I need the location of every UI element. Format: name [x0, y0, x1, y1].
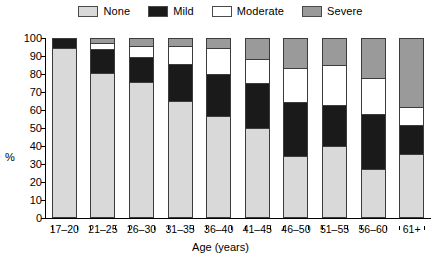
- bar-segment: [284, 39, 307, 68]
- bar-stack: [129, 38, 154, 218]
- y-axis-tick-labels: 0102030405060708090100: [16, 30, 42, 218]
- bar-segment: [207, 74, 230, 116]
- y-tick-label: 100: [24, 33, 42, 44]
- legend-label: Severe: [327, 6, 362, 17]
- bar-segment: [169, 39, 192, 46]
- bar-segment: [169, 46, 192, 64]
- bar-segment: [53, 39, 76, 48]
- y-axis-title: %: [5, 152, 15, 163]
- x-tick-label: 36–40: [204, 223, 233, 235]
- bar-stack: [52, 38, 77, 218]
- bar-segment: [362, 169, 385, 217]
- legend-item: Moderate: [212, 6, 284, 17]
- bar-segment: [362, 39, 385, 78]
- bar-segment: [53, 48, 76, 217]
- bar-segment: [169, 101, 192, 217]
- bar-segment: [323, 39, 346, 65]
- bar-segment: [207, 48, 230, 74]
- x-axis-tick-labels: 17–2021–2526–3031–3536–4041–4546–5051–55…: [45, 223, 431, 237]
- bar-stack: [361, 38, 386, 218]
- x-tick-label: 31–35: [165, 223, 194, 235]
- bar-segment: [246, 39, 269, 59]
- legend-item: Mild: [148, 6, 194, 17]
- bar-segment: [130, 46, 153, 57]
- bar-segment: [91, 73, 114, 217]
- bar-segment: [246, 128, 269, 217]
- bar-segment: [400, 154, 423, 217]
- bar-segment: [400, 125, 423, 153]
- bar-stack: [168, 38, 193, 218]
- bar-segment: [323, 105, 346, 146]
- bar-segment: [246, 59, 269, 83]
- bar-stack: [90, 38, 115, 218]
- bar-segment: [400, 39, 423, 107]
- x-tick-label: 26–30: [127, 223, 156, 235]
- bar-segment: [130, 57, 153, 82]
- x-tick-label: 41–45: [243, 223, 272, 235]
- bar-stack: [283, 38, 308, 218]
- bars-layer: [45, 38, 431, 218]
- legend-label: None: [103, 6, 130, 17]
- chart-legend: NoneMildModerateSevere: [0, 6, 441, 17]
- bar-segment: [362, 114, 385, 169]
- legend-swatch-icon: [302, 6, 322, 17]
- bar-segment: [246, 83, 269, 128]
- legend-label: Mild: [173, 6, 194, 17]
- x-tick-label: 21–25: [88, 223, 117, 235]
- bar-segment: [284, 102, 307, 155]
- x-axis-line: [45, 218, 431, 219]
- bar-segment: [130, 39, 153, 46]
- y-tick-mark: [41, 218, 45, 219]
- bar-segment: [207, 39, 230, 48]
- bar-segment: [91, 49, 114, 73]
- bar-stack: [399, 38, 424, 218]
- bar-segment: [130, 82, 153, 217]
- bar-stack: [245, 38, 270, 218]
- x-tick-label: 61+: [403, 223, 421, 235]
- x-axis-title: Age (years): [0, 241, 441, 253]
- bar-segment: [400, 107, 423, 126]
- legend-item: Severe: [302, 6, 362, 17]
- bar-segment: [207, 116, 230, 217]
- legend-swatch-icon: [78, 6, 98, 17]
- bar-segment: [169, 64, 192, 101]
- bar-stack: [206, 38, 231, 218]
- bar-segment: [323, 65, 346, 105]
- bar-segment: [362, 78, 385, 114]
- x-tick-label: 46–50: [281, 223, 310, 235]
- bar-stack: [322, 38, 347, 218]
- x-tick-label: 17–20: [50, 223, 79, 235]
- x-tick-label: 51–55: [320, 223, 349, 235]
- legend-swatch-icon: [212, 6, 232, 17]
- bar-segment: [284, 156, 307, 217]
- plot-area: % 0102030405060708090100 17–2021–2526–30…: [0, 30, 441, 260]
- legend-item: None: [78, 6, 130, 17]
- legend-swatch-icon: [148, 6, 168, 17]
- bar-segment: [323, 146, 346, 217]
- stacked-bar-chart: NoneMildModerateSevere % 010203040506070…: [0, 0, 441, 260]
- legend-label: Moderate: [237, 6, 284, 17]
- bar-segment: [284, 68, 307, 102]
- x-tick-label: 56–60: [358, 223, 387, 235]
